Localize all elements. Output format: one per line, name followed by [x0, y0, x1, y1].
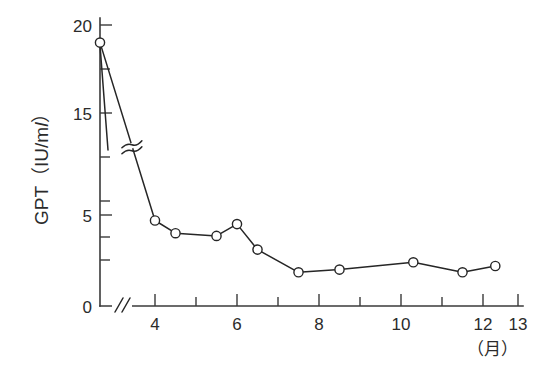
data-point-4 — [212, 231, 221, 240]
x-tick-label-4: 4 — [150, 315, 159, 334]
x-axis-tick-labels: 4 6 8 10 12 13 — [150, 315, 527, 334]
x-tick-label-8: 8 — [314, 315, 323, 334]
data-markers — [95, 38, 500, 277]
y-tick-label-15: 15 — [73, 105, 92, 124]
data-point-6 — [253, 245, 262, 254]
gpt-line-chart: GPT（IU/ml） 20 15 — [0, 0, 551, 378]
y-tick-label-5: 5 — [83, 207, 92, 226]
y-axis-label-prefix: GPT（IU/m — [31, 127, 52, 225]
x-axis-unit-label: （月） — [467, 340, 518, 359]
svg-text:GPT（IU/ml）: GPT（IU/ml） — [31, 104, 52, 225]
data-point-1 — [95, 38, 104, 47]
data-point-7 — [294, 268, 303, 277]
data-point-3 — [171, 229, 180, 238]
x-tick-label-13: 13 — [509, 315, 528, 334]
chart-figure: GPT（IU/ml） 20 15 — [0, 0, 551, 378]
y-tick-label-20: 20 — [73, 17, 92, 36]
data-point-8 — [335, 265, 344, 274]
data-point-9 — [409, 258, 418, 267]
y-axis-label: GPT（IU/ml） — [31, 104, 52, 225]
x-tick-label-10: 10 — [392, 315, 411, 334]
x-tick-label-6: 6 — [232, 315, 241, 334]
x-axis-ticks — [155, 294, 518, 306]
data-point-2 — [150, 216, 159, 225]
y-tick-label-0: 0 — [83, 298, 92, 317]
data-point-11 — [491, 261, 500, 270]
data-point-10 — [458, 268, 467, 277]
x-axis-break-mark — [112, 298, 132, 312]
data-series-line — [100, 43, 495, 273]
data-point-5 — [232, 220, 241, 229]
x-tick-label-12: 12 — [474, 315, 493, 334]
y-axis-tick-labels: 20 15 5 0 — [73, 17, 92, 317]
y-axis-label-suffix: ） — [31, 104, 52, 123]
